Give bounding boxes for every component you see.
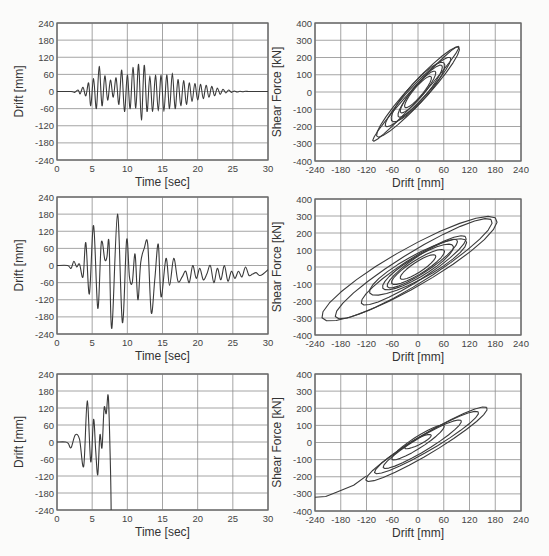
x-tick-label: 0 [54, 163, 59, 174]
x-tick-label: 240 [513, 338, 529, 349]
x-tick-label: -120 [357, 514, 376, 525]
y-tick-label: -180 [35, 311, 54, 322]
y-tick-label: 300 [296, 386, 312, 397]
y-tick-label: 0 [49, 260, 54, 271]
x-tick-label: 25 [228, 513, 239, 524]
y-tick-label: 300 [296, 35, 312, 46]
x-tick-label: 0 [54, 337, 59, 348]
y-tick-label: -400 [293, 330, 312, 341]
y-tick-label: 200 [296, 403, 312, 414]
y-axis-label: Shear Force [kN] [270, 47, 284, 138]
x-tick-label: 120 [462, 338, 478, 349]
x-tick-label: 20 [192, 163, 203, 174]
x-tick-label: 5 [90, 513, 95, 524]
x-tick-label: 30 [263, 337, 274, 348]
y-tick-label: -180 [35, 137, 54, 148]
y-tick-label: -60 [40, 454, 54, 465]
x-tick-label: 20 [192, 513, 203, 524]
y-tick-label: 240 [38, 192, 54, 203]
x-tick-label: -180 [331, 164, 350, 175]
y-tick-label: 100 [296, 69, 312, 80]
y-axis-label: Shear Force [kN] [270, 222, 284, 313]
y-axis-label: Shear Force [kN] [270, 397, 284, 488]
hysteresis-1-chart: -240-180-120-600601201802404003002001000… [270, 18, 529, 191]
y-tick-label: -120 [35, 120, 54, 131]
y-tick-label: 100 [296, 420, 312, 431]
y-tick-label: -400 [293, 156, 312, 167]
y-tick-label: 180 [38, 386, 54, 397]
y-tick-label: 240 [38, 18, 54, 29]
y-tick-label: 120 [38, 226, 54, 237]
figure-canvas: 051015202530240180120600-60-120-180-240T… [0, 0, 549, 556]
x-tick-label: -180 [331, 514, 350, 525]
y-tick-label: 200 [296, 228, 312, 239]
y-tick-label: 400 [296, 369, 312, 380]
x-tick-label: 0 [415, 164, 420, 175]
y-tick-label: 180 [38, 209, 54, 220]
x-axis-label: Time [sec] [135, 175, 190, 189]
x-tick-label: 10 [122, 163, 133, 174]
x-tick-label: 180 [487, 514, 503, 525]
y-tick-label: 400 [296, 194, 312, 205]
x-tick-label: 5 [90, 337, 95, 348]
y-tick-label: -60 [40, 103, 54, 114]
x-tick-label: 0 [415, 338, 420, 349]
x-tick-label: 25 [228, 163, 239, 174]
x-tick-label: 30 [263, 163, 274, 174]
y-tick-label: 0 [307, 87, 312, 98]
x-tick-label: 240 [513, 164, 529, 175]
drift-time-3-chart: 051015202530240180120600-60-120-180-240T… [12, 369, 273, 540]
y-tick-label: -300 [293, 488, 312, 499]
y-axis-label: Drift [mm] [12, 240, 26, 292]
y-tick-label: -100 [293, 104, 312, 115]
x-tick-label: 0 [415, 514, 420, 525]
x-tick-label: 60 [438, 514, 449, 525]
y-tick-label: 400 [296, 18, 312, 29]
x-tick-label: 30 [263, 513, 274, 524]
y-tick-label: 200 [296, 52, 312, 63]
y-tick-label: 0 [49, 86, 54, 97]
x-tick-label: -60 [385, 164, 399, 175]
y-tick-label: 0 [49, 437, 54, 448]
x-tick-label: 180 [487, 164, 503, 175]
x-tick-label: 180 [487, 338, 503, 349]
x-tick-label: 60 [438, 338, 449, 349]
x-tick-label: 240 [513, 514, 529, 525]
y-tick-label: -240 [35, 329, 54, 340]
drift-time-1-chart: 051015202530240180120600-60-120-180-240T… [12, 18, 273, 190]
y-tick-label: -240 [35, 155, 54, 166]
x-tick-label: -120 [357, 338, 376, 349]
y-tick-label: 100 [296, 245, 312, 256]
y-tick-label: -200 [293, 121, 312, 132]
y-tick-label: 180 [38, 35, 54, 46]
y-tick-label: 0 [307, 437, 312, 448]
hysteresis-3-chart: -240-180-120-600601201802404003002001000… [270, 369, 529, 541]
y-tick-label: 0 [307, 262, 312, 273]
y-axis-label: Drift [mm] [12, 66, 26, 118]
y-tick-label: -100 [293, 454, 312, 465]
y-tick-label: -200 [293, 471, 312, 482]
x-tick-label: 25 [228, 337, 239, 348]
x-tick-label: 15 [157, 163, 168, 174]
x-axis-label: Drift [mm] [392, 526, 444, 540]
y-tick-label: -300 [293, 313, 312, 324]
y-tick-label: -60 [40, 277, 54, 288]
y-tick-label: -120 [35, 471, 54, 482]
x-tick-label: -180 [331, 338, 350, 349]
x-tick-label: 5 [90, 163, 95, 174]
x-tick-label: -60 [385, 514, 399, 525]
y-tick-label: 60 [43, 420, 54, 431]
x-tick-label: 15 [157, 513, 168, 524]
x-axis-label: Time [sec] [135, 525, 190, 539]
y-tick-label: 120 [38, 403, 54, 414]
y-tick-label: 240 [38, 369, 54, 380]
drift-time-2-chart: 051015202530240180120600-60-120-180-240T… [12, 192, 273, 364]
y-tick-label: -180 [35, 488, 54, 499]
x-tick-label: 10 [122, 513, 133, 524]
y-tick-label: 120 [38, 52, 54, 63]
x-tick-label: 120 [462, 164, 478, 175]
x-tick-label: 0 [54, 513, 59, 524]
y-tick-label: 60 [43, 69, 54, 80]
x-tick-label: -120 [357, 164, 376, 175]
y-tick-label: -400 [293, 506, 312, 517]
